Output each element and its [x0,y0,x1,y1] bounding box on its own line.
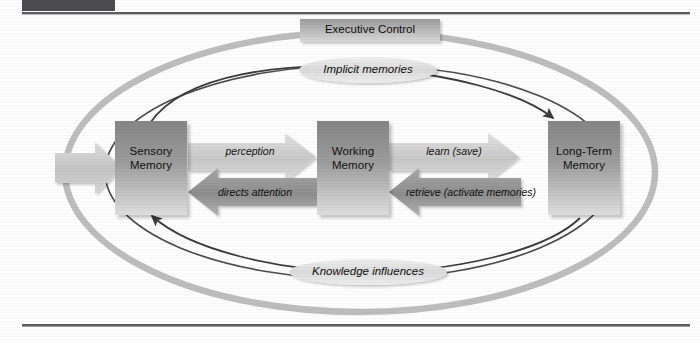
implicit-memories-label: Implicit memories [299,63,437,77]
long-term-memory-line2: Memory [544,159,624,173]
sensory-memory-line2: Memory [115,159,187,173]
top-rule [22,12,690,14]
working-memory-line1: Working [317,145,389,159]
bottom-rule [22,324,690,327]
learn-save-arrow-label: learn (save) [409,145,499,157]
figure-root: Sensory Memory Working Memory Long-Term … [0,0,700,343]
long-term-memory-line1: Long-Term [544,145,624,159]
sensory-memory-line1: Sensory [115,145,187,159]
knowledge-influences-label: Knowledge influences [289,265,447,279]
executive-control-label: Executive Control [300,23,440,37]
working-memory-label: Working Memory [317,145,389,172]
perception-arrow-label: perception [205,145,295,157]
long-term-memory-label: Long-Term Memory [544,145,624,172]
working-memory-line2: Memory [317,159,389,173]
top-block [22,0,115,11]
sensory-memory-label: Sensory Memory [115,145,187,172]
retrieve-arrow-label: retrieve (activate memories) [391,186,551,198]
directs-attention-arrow-label: directs attention [185,186,325,198]
